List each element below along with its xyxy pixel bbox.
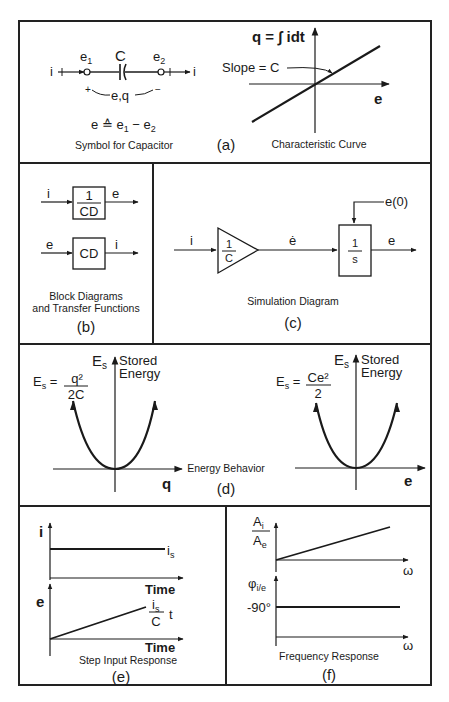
- current-out-label: i: [193, 64, 196, 79]
- voltage-axis-label: e: [374, 90, 382, 107]
- panel-c-caption: Simulation Diagram: [247, 295, 339, 307]
- charge-axis: q: [162, 475, 171, 492]
- svg-text:Es: Es: [334, 351, 349, 370]
- left-eq-den: 2C: [68, 387, 85, 402]
- panel-d-tag: (d): [217, 480, 235, 497]
- current-axis: i: [39, 523, 43, 540]
- svg-text:Ae: Ae: [253, 533, 267, 550]
- ramp-den: C: [151, 614, 160, 629]
- panel-a-tag: (a): [217, 136, 235, 153]
- right-eq-num: Ce²: [308, 370, 330, 385]
- panel-b-caption-1: Block Diagrams: [49, 290, 123, 302]
- voltage-axis: e: [404, 472, 412, 489]
- panel-a-curve: q = ∫ idt e Slope = C Characteristic Cur…: [222, 28, 389, 150]
- capacitance-label: C: [115, 47, 126, 64]
- svg-text:Ai: Ai: [253, 514, 264, 531]
- definition-equation: e ≙ e1 − e2: [91, 117, 156, 134]
- integrator-num: 1: [352, 237, 358, 249]
- panel-a-symbol: i i C e1 e2 + − e,q e ≙ e1 − e2 Symbol f…: [50, 47, 235, 153]
- left-eq-num: q²: [71, 371, 83, 386]
- svg-text:is: is: [167, 543, 175, 560]
- block2-tf: CD: [80, 246, 99, 261]
- sim-output: e: [388, 233, 395, 248]
- svg-text:Es =: Es =: [33, 374, 57, 391]
- panel-d-right: Es = Ce² 2 Es Stored Energy e: [276, 351, 425, 490]
- gain-num: 1: [226, 238, 232, 250]
- block1-input: i: [47, 186, 50, 201]
- voltage-axis-e: e: [36, 593, 44, 610]
- gain-den: C: [225, 252, 233, 264]
- panel-b: i 1 CD e e CD i Block Diagrams and Trans…: [32, 186, 139, 335]
- node2-label: e2: [153, 49, 165, 66]
- block1-den: CD: [80, 204, 99, 219]
- initial-condition: e(0): [385, 194, 408, 209]
- panel-f: Ai Ae ω φi/e -90° ω Frequency Response (…: [247, 514, 413, 683]
- panel-e-caption: Step Input Response: [79, 654, 177, 666]
- sim-input: i: [190, 233, 193, 248]
- panel-d-left: Es = q² 2C Es Stored Energy q: [33, 352, 182, 492]
- right-eq-den: 2: [314, 386, 321, 401]
- panel-e-tag: (e): [112, 668, 130, 685]
- diagram-canvas: i i C e1 e2 + − e,q e ≙ e1 − e2 Symbol f…: [0, 0, 449, 702]
- phase-level: -90°: [247, 600, 271, 615]
- panel-d-caption: Energy Behavior: [187, 462, 265, 474]
- panel-f-tag: (f): [322, 666, 336, 683]
- time-axis-bottom: Time: [145, 640, 175, 655]
- panel-b-caption-2: and Transfer Functions: [32, 302, 139, 314]
- time-axis-top: Time: [145, 582, 175, 597]
- edot-label: ė: [289, 233, 296, 248]
- panel-f-caption: Frequency Response: [279, 650, 379, 662]
- svg-text:is: is: [152, 597, 160, 614]
- svg-text:φi/e: φi/e: [248, 576, 266, 593]
- ramp-t: t: [169, 607, 173, 622]
- right-energy-label: Energy: [361, 365, 403, 380]
- node1-label: e1: [80, 49, 92, 66]
- panel-c-tag: (c): [284, 314, 302, 331]
- slope-annotation: Slope = C: [222, 60, 279, 75]
- left-energy-label: Energy: [119, 366, 161, 381]
- current-in-label: i: [50, 64, 53, 79]
- variables-label: e,q: [111, 88, 129, 103]
- panel-b-tag: (b): [77, 318, 95, 335]
- integrator-den: s: [352, 253, 358, 265]
- panel-c: i 1 C ė 1 s e e(0) Simulation Diagram (c…: [174, 194, 416, 331]
- block1-output: e: [112, 186, 119, 201]
- curve-caption: Characteristic Curve: [271, 138, 366, 150]
- svg-text:Es =: Es =: [276, 374, 300, 391]
- omega-top: ω: [403, 563, 413, 578]
- svg-text:Es: Es: [92, 352, 107, 371]
- block2-output: i: [115, 237, 118, 252]
- symbol-caption: Symbol for Capacitor: [75, 139, 174, 151]
- charge-axis-label: q = ∫ idt: [252, 28, 305, 46]
- minus-sign: −: [155, 84, 161, 95]
- plus-sign: +: [85, 84, 91, 95]
- panel-e: i Time is e Time is C t Step Input Respo…: [36, 523, 183, 685]
- block1-num: 1: [85, 188, 92, 203]
- block2-input: e: [46, 237, 53, 252]
- omega-bottom: ω: [403, 638, 413, 653]
